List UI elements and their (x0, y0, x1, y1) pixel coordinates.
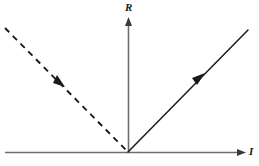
horizontal-axis (5, 149, 246, 156)
solid-branch-arrowhead (192, 73, 205, 85)
dashed-branch-line (5, 28, 128, 152)
solid-branch (128, 30, 248, 152)
horizontal-axis-arrowhead (237, 149, 246, 156)
vertical-axis (125, 17, 132, 153)
horizontal-axis-label: I (249, 146, 253, 157)
dashed-branch-arrowhead (53, 75, 65, 87)
vertical-axis-label: R (125, 2, 132, 13)
graph-svg (0, 0, 259, 166)
solid-branch-line (128, 30, 248, 152)
dashed-branch (5, 28, 128, 152)
diagram-canvas: R I (0, 0, 259, 166)
vertical-axis-arrowhead (125, 17, 132, 26)
